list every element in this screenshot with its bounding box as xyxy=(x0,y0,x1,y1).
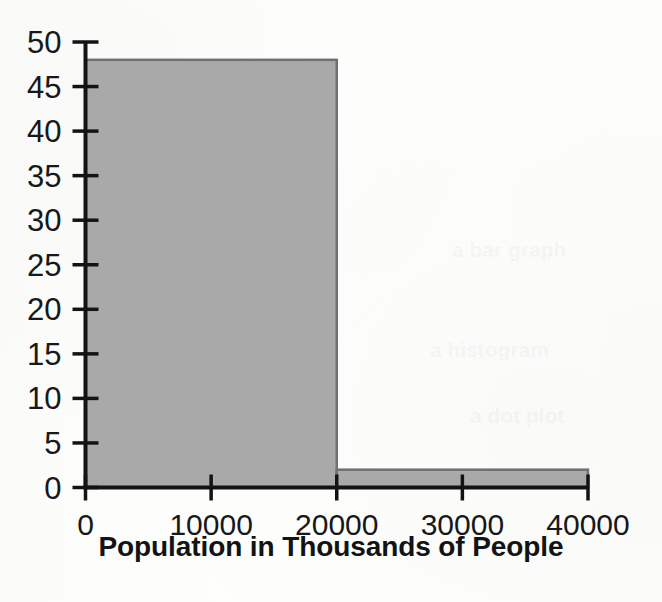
y-tick-label: 20 xyxy=(0,294,62,325)
histogram-bar xyxy=(86,60,337,488)
y-tick-label: 50 xyxy=(0,27,62,58)
y-tick-label: 5 xyxy=(0,427,62,458)
y-tick-label: 40 xyxy=(0,116,62,147)
y-tick-label: 30 xyxy=(0,205,62,236)
y-tick-label: 0 xyxy=(0,472,62,503)
histogram-figure: a bar graph a histogram a dot plot 05101… xyxy=(0,0,662,602)
bars-group xyxy=(86,60,589,488)
y-tick-label: 10 xyxy=(0,383,62,414)
y-tick-label: 35 xyxy=(0,160,62,191)
y-tick-label: 25 xyxy=(0,249,62,280)
y-tick-label: 45 xyxy=(0,71,62,102)
y-tick-label: 15 xyxy=(0,338,62,369)
x-axis-title: Population in Thousands of People xyxy=(0,531,662,563)
